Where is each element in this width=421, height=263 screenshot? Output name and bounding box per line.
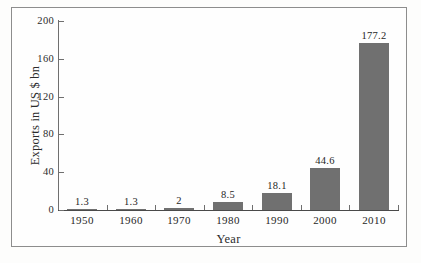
x-tick-mark [301, 205, 302, 210]
y-tick-label-text: 160 [10, 54, 54, 64]
bar[interactable] [116, 209, 146, 211]
bar-value-label: 18.1 [247, 180, 307, 191]
figure: Exports in US $ bn 04080120160200 195019… [0, 0, 421, 263]
y-tick-label: 200 [8, 16, 54, 26]
y-tick-label: 0 [8, 205, 54, 215]
y-tick-mark [59, 134, 64, 135]
y-tick-mark [59, 59, 64, 60]
bar-value-label: 177.2 [344, 30, 404, 41]
y-axis-title: Exports in US $ bn [28, 21, 43, 211]
y-tick-mark [59, 172, 64, 173]
figure-frame [11, 7, 407, 247]
y-tick-label: 120 [8, 92, 54, 102]
bar[interactable] [67, 209, 97, 211]
bar[interactable] [213, 202, 243, 210]
y-tick-label-text: 0 [10, 205, 54, 215]
bar[interactable] [164, 208, 194, 210]
y-tick-label: 160 [8, 54, 54, 64]
y-axis-line [58, 20, 59, 211]
y-tick-label-text: 120 [10, 92, 54, 102]
y-tick-mark [59, 21, 64, 22]
y-tick-label: 40 [8, 167, 54, 177]
bar[interactable] [310, 168, 340, 210]
clipped-caption [120, 256, 340, 263]
bar[interactable] [262, 193, 292, 210]
x-axis-title: Year [58, 232, 399, 247]
x-axis-line [58, 210, 399, 211]
x-tick-mark [398, 205, 399, 210]
y-tick-label-text: 80 [10, 129, 54, 139]
x-tick-mark [349, 205, 350, 210]
x-tick-label: 2010 [344, 214, 404, 226]
y-tick-mark [59, 210, 64, 211]
y-tick-label: 80 [8, 129, 54, 139]
y-tick-mark [59, 97, 64, 98]
y-tick-label-text: 40 [10, 167, 54, 177]
bar[interactable] [359, 43, 389, 210]
bar-value-label: 44.6 [295, 155, 355, 166]
x-tick-mark [252, 205, 253, 210]
y-tick-label-text: 200 [10, 16, 54, 26]
